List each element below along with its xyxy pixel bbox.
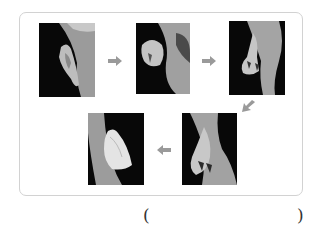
arrow-right-icon [202,56,216,66]
photo-step-4-wings-hanging [182,113,237,185]
photo-step-5-adult-butterfly [88,113,144,185]
answer-open-paren: ( [143,205,150,225]
photo-step-3-emerging [229,21,285,95]
arrow-down-left-icon [242,100,255,112]
photo-step-1-pupa [39,23,95,97]
arrow-left-icon [157,145,171,155]
photo-step-2-splitting [136,23,190,94]
arrow-right-icon [108,56,122,66]
answer-close-paren: ) [297,205,304,225]
answer-blank[interactable] [155,205,295,225]
